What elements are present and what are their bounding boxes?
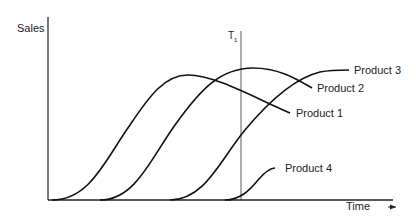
product-1-curve [52,75,290,200]
y-axis-label: Sales [17,22,45,34]
t1-label: T1 [228,30,237,43]
legend-product-4: Product 4 [285,162,332,174]
legend-product-1: Product 1 [296,107,343,119]
product-2-curve [100,68,312,200]
chart-canvas [0,0,418,219]
legend-product-2: Product 2 [317,82,364,94]
legend-product-3: Product 3 [354,64,401,76]
arrow-icon [390,205,396,210]
product-4-curve [225,168,275,200]
x-axis-label: Time [346,200,370,212]
